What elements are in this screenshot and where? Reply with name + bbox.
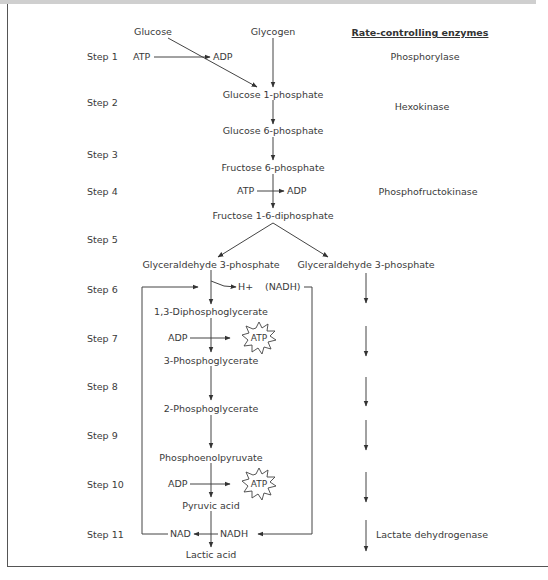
step11-nadh-label: NADH <box>220 528 248 540</box>
glucose-6-phosphate-label: Glucose 6-phosphate <box>223 125 324 137</box>
fructose-6-phosphate-label: Fructose 6-phosphate <box>221 162 324 174</box>
step6-h-plus-label: H+ <box>238 281 253 293</box>
step1-adp-label: ADP <box>213 51 233 63</box>
step-label: Step 5 <box>87 234 118 246</box>
step-label: Step 9 <box>87 430 118 442</box>
glucose-label: Glucose <box>134 26 172 38</box>
glycogen-label: Glycogen <box>251 26 296 38</box>
step-label: Step 2 <box>87 97 118 109</box>
1-3-diphosphoglycerate-label: 1,3-Diphosphoglycerate <box>154 306 268 318</box>
step-label: Step 11 <box>87 529 124 541</box>
step-label: Step 7 <box>87 333 118 345</box>
glucose-1-phosphate-label: Glucose 1-phosphate <box>223 89 324 101</box>
step10-atp-label: ATP <box>251 479 267 489</box>
step7-adp-label: ADP <box>168 332 188 344</box>
2-phosphoglycerate-label: 2-Phosphoglycerate <box>164 403 259 415</box>
lactic-acid-label: Lactic acid <box>186 549 237 561</box>
enzyme-hexokinase: Hexokinase <box>395 101 450 113</box>
enzyme-lactate-dehydrogenase: Lactate dehydrogenase <box>376 529 488 541</box>
step-label: Step 8 <box>87 381 118 393</box>
step6-nadh-label: (NADH) <box>265 281 300 293</box>
step4-adp-label: ADP <box>287 185 307 197</box>
step11-nad-label: NAD <box>170 528 191 540</box>
step-label: Step 3 <box>87 149 118 161</box>
glyceraldehyde-3-phosphate-left-label: Glyceraldehyde 3-phosphate <box>142 259 279 271</box>
step-label: Step 1 <box>87 51 118 63</box>
fructose-1-6-diphosphate-label: Fructose 1-6-diphosphate <box>212 210 333 222</box>
step-label: Step 10 <box>87 479 124 491</box>
phosphoenolpyruvate-label: Phosphoenolpyruvate <box>159 452 262 464</box>
3-phosphoglycerate-label: 3-Phosphoglycerate <box>164 355 259 367</box>
step-label: Step 4 <box>87 186 118 198</box>
step1-atp-label: ATP <box>133 51 150 63</box>
glyceraldehyde-3-phosphate-right-label: Glyceraldehyde 3-phosphate <box>297 259 434 271</box>
pyruvic-acid-label: Pyruvic acid <box>182 500 240 512</box>
step-label: Step 6 <box>87 284 118 296</box>
enzymes-header: Rate-controlling enzymes <box>352 27 489 39</box>
enzyme-phosphofructokinase: Phosphofructokinase <box>378 186 477 198</box>
step7-atp-label: ATP <box>251 333 267 343</box>
enzyme-phosphorylase: Phosphorylase <box>390 51 459 63</box>
step4-atp-label: ATP <box>237 185 254 197</box>
step10-adp-label: ADP <box>168 478 188 490</box>
